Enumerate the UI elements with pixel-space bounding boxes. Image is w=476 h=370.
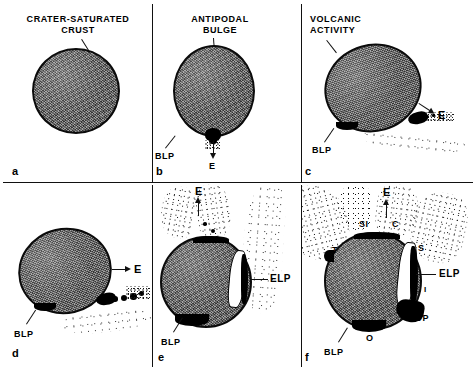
panel-e-plume-left xyxy=(157,184,200,241)
panel-a: CRATER-SATURATED CRUST a xyxy=(0,0,152,182)
panel-f-label-c: C xyxy=(392,220,399,229)
panel-a-heading: CRATER-SATURATED CRUST xyxy=(18,14,138,36)
panel-b-label-e: E xyxy=(209,162,216,171)
panel-e-top-cap xyxy=(193,236,229,243)
panel-letter-b: b xyxy=(156,166,163,177)
panel-d: E BLP d xyxy=(0,184,152,370)
panel-letter-a: a xyxy=(12,166,18,177)
panel-c-label-e: E xyxy=(438,110,446,121)
panel-c-label-blp: BLP xyxy=(312,146,332,155)
panel-f-label-o: O xyxy=(366,334,374,343)
panel-e-e-arrow-shaft xyxy=(198,202,199,216)
panel-f-label-e: E xyxy=(383,187,391,198)
panel-e-label-blp: BLP xyxy=(161,338,181,347)
panel-b-e-arrow-head xyxy=(210,153,216,159)
panel-d-body xyxy=(10,219,121,324)
panel-f-label-s: S xyxy=(418,244,425,253)
panel-f-label-elp: ELP xyxy=(439,269,460,279)
panel-f-label-si: SI xyxy=(359,220,369,229)
panel-a-body xyxy=(32,48,120,134)
panel-letter-f: f xyxy=(305,352,309,363)
panel-c-body xyxy=(314,32,432,144)
panel-letter-d: d xyxy=(12,348,19,359)
panel-f-o-basin xyxy=(352,320,386,332)
panel-b: ANTIPODAL BULGE BLP E b xyxy=(153,0,301,182)
panel-e: E ELP BLP e xyxy=(153,184,301,370)
panel-c-blp-leader xyxy=(324,128,334,143)
panel-f-blp-leader xyxy=(338,328,348,343)
panel-e-label-elp: ELP xyxy=(270,274,291,284)
panel-b-heading: ANTIPODAL BULGE xyxy=(165,14,275,36)
panel-c-dust-band xyxy=(359,128,468,155)
panel-f-top-cap xyxy=(354,232,400,239)
panel-b-body xyxy=(173,45,255,137)
grid-horizontal-divider xyxy=(3,182,473,183)
panel-c-leader-line xyxy=(326,40,337,53)
panel-d-droplet-1 xyxy=(104,297,109,302)
panel-f-e-arrow-shaft xyxy=(386,204,387,218)
panel-e-ejecta-dot-2 xyxy=(203,222,207,226)
panel-e-label-e: E xyxy=(195,186,203,197)
panel-c-basin-blob xyxy=(336,122,358,130)
panel-d-label-e: E xyxy=(134,264,142,275)
panel-c-ejecta-dot-1 xyxy=(426,115,429,118)
panel-d-droplet-stipple xyxy=(126,286,150,300)
panel-c: VOLCANIC ACTIVITY E BLP c xyxy=(302,0,476,182)
panel-f-label-op: OP xyxy=(415,314,429,323)
panel-e-ejecta-dot-3 xyxy=(215,236,218,239)
panel-b-blp-leader xyxy=(165,135,176,148)
panel-f-label-i: I xyxy=(424,286,427,294)
panel-d-basin-blob xyxy=(34,303,56,311)
panel-b-label-blp: BLP xyxy=(155,152,175,161)
panel-e-e-arrow-head xyxy=(195,197,201,203)
panel-e-ejecta-dot-1 xyxy=(211,229,215,233)
panel-d-blp-leader xyxy=(26,310,36,325)
panel-letter-c: c xyxy=(305,166,311,177)
panel-f-e-arrow-head xyxy=(383,199,389,205)
panel-d-droplet-2 xyxy=(112,296,118,302)
panel-letter-e: e xyxy=(158,352,164,363)
figure-root: CRATER-SATURATED CRUST a ANTIPODAL BULGE… xyxy=(0,0,476,370)
panel-e-elp-rim xyxy=(241,254,248,304)
panel-c-heading: VOLCANIC ACTIVITY xyxy=(310,14,420,36)
panel-f-label-t: T xyxy=(332,246,338,255)
panel-f-elp-rim xyxy=(410,246,418,304)
panel-f-elp-leader xyxy=(416,274,436,275)
panel-f-label-blp: BLP xyxy=(324,348,344,357)
panel-e-elp-leader xyxy=(250,279,268,280)
panel-d-label-blp: BLP xyxy=(14,330,34,339)
panel-d-e-arrow-shaft xyxy=(112,269,126,270)
panel-f: E SI C S T I OP O ELP BLP f xyxy=(302,184,476,370)
panel-d-e-arrow-head xyxy=(125,266,131,272)
